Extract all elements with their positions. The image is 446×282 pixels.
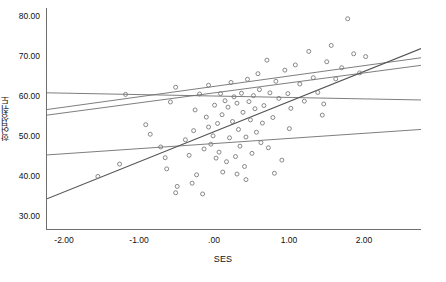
x-axis-title: SES [0, 254, 446, 264]
scatter-point [190, 181, 194, 185]
y-tick-label: 40.00 [0, 172, 40, 181]
scatter-point [201, 192, 205, 196]
scatter-point [260, 121, 264, 125]
scatter-point [183, 138, 187, 142]
scatter-point [256, 72, 260, 76]
line-2-moderate [47, 58, 421, 110]
scatter-point [329, 43, 333, 47]
scatter-point [144, 123, 148, 127]
scatter-point [207, 125, 211, 129]
scatter-point [235, 101, 239, 105]
scatter-points-group [96, 17, 368, 196]
scatter-point [346, 17, 350, 21]
scatter-point [204, 115, 208, 119]
x-tick-label: .00 [208, 236, 220, 245]
scatter-point [302, 99, 306, 103]
scatter-point [223, 99, 227, 103]
scatter-point [325, 60, 329, 64]
scatter-point [148, 132, 152, 136]
scatter-point [274, 79, 278, 83]
scatter-point [268, 91, 272, 95]
scatter-point [213, 103, 217, 107]
scatter-point [195, 173, 199, 177]
x-tick-label: 2.00 [356, 236, 373, 245]
scatter-point [334, 77, 338, 81]
scatter-point [307, 49, 311, 53]
scatter-point [266, 146, 270, 150]
scatter-point [280, 158, 284, 162]
scatter-point [244, 135, 248, 139]
scatter-plot-figure: 80.00 70.00 60.00 50.00 40.00 30.00 학업성취… [0, 0, 446, 282]
scatter-point [250, 151, 254, 155]
scatter-point [165, 167, 169, 171]
scatter-point [228, 136, 232, 140]
scatter-point [244, 178, 248, 182]
scatter-point [175, 184, 179, 188]
scatter-point [289, 106, 293, 110]
scatter-point [259, 141, 263, 145]
scatter-point [254, 130, 258, 134]
scatter-point [236, 127, 240, 131]
scatter-point [174, 191, 178, 195]
scatter-point [220, 113, 224, 117]
line-3-moderate-lower [47, 65, 421, 115]
scatter-point [245, 77, 249, 81]
x-tick-label: 1.00 [281, 236, 298, 245]
scatter-point [202, 147, 206, 151]
plot-area [46, 8, 421, 230]
scatter-point [163, 156, 167, 160]
scatter-point [225, 160, 229, 164]
scatter-point [316, 90, 320, 94]
scatter-point [265, 58, 269, 62]
scatter-point [242, 164, 246, 168]
regression-lines-group [47, 49, 421, 199]
scatter-point [262, 104, 266, 108]
scatter-point [287, 127, 291, 131]
line-5-steep [47, 49, 421, 199]
scatter-point [257, 88, 261, 92]
scatter-point [293, 63, 297, 67]
y-tick-label: 80.00 [0, 12, 40, 21]
scatter-point [192, 129, 196, 133]
plot-canvas [47, 8, 421, 229]
scatter-point [271, 116, 275, 120]
scatter-point [168, 100, 172, 104]
scatter-point [217, 150, 221, 154]
y-axis-title: 학업성취도 [1, 96, 15, 141]
scatter-point [322, 102, 326, 106]
scatter-point [221, 170, 225, 174]
scatter-point [174, 85, 178, 89]
scatter-point [241, 110, 245, 114]
scatter-point [320, 113, 324, 117]
scatter-point [238, 144, 242, 148]
scatter-point [235, 172, 239, 176]
scatter-point [216, 121, 220, 125]
scatter-point [283, 68, 287, 72]
scatter-point [214, 156, 218, 160]
y-tick-label: 30.00 [0, 212, 40, 221]
scatter-point [247, 100, 251, 104]
x-tick-label: -2.00 [54, 236, 73, 245]
scatter-point [364, 55, 368, 59]
scatter-point [298, 82, 302, 86]
scatter-point [311, 76, 315, 80]
scatter-point [272, 171, 276, 175]
scatter-point [231, 119, 235, 123]
scatter-point [226, 105, 230, 109]
scatter-point [286, 92, 290, 96]
scatter-point [253, 107, 257, 111]
x-tick-label: -1.00 [129, 236, 148, 245]
scatter-point [352, 52, 356, 56]
scatter-point [234, 155, 238, 159]
line-4-shallow [47, 129, 421, 154]
scatter-point [187, 153, 191, 157]
scatter-point [118, 162, 122, 166]
scatter-point [207, 83, 211, 87]
scatter-point [239, 91, 243, 95]
scatter-point [248, 118, 252, 122]
scatter-point [211, 134, 215, 138]
scatter-point [193, 108, 197, 112]
y-tick-label: 70.00 [0, 52, 40, 61]
y-axis-tick-labels: 80.00 70.00 60.00 50.00 40.00 30.00 [0, 0, 44, 282]
